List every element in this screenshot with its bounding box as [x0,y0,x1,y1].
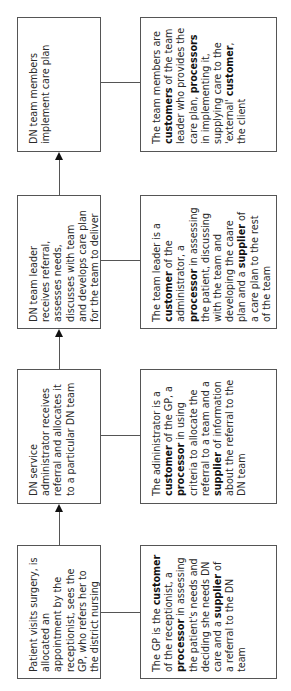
role-text-4: The team members are customers of the te… [151,26,249,144]
connector-1 [101,612,140,613]
process-text-1: Patient visits surgery, is allocated an … [28,554,101,672]
role-keyword: customer [163,271,174,322]
connector-2 [101,435,140,436]
role-box-4: The team members are customers of the te… [140,17,277,152]
flow-arrow-line-2 [59,337,60,369]
role-keyword: supplier [236,224,247,268]
role-keyword: processor [175,443,186,496]
role-text-2: The adininistrator is a customer of the … [151,378,249,496]
process-box-4: DN team members implement care plan [17,17,101,152]
role-box-3: The team leader is a customer of the adm… [140,195,277,329]
role-keyword: customer [224,46,235,97]
role-keyword: processors [188,35,199,94]
role-box-1: The GP is the customer of the receptioni… [140,545,277,679]
role-keyword: supplier [212,452,223,496]
flow-arrow-line-3 [59,160,60,195]
role-box-2: The adininistrator is a customer of the … [140,369,277,504]
role-keyword: processor [188,269,199,322]
role-keyword: customer [151,555,162,606]
arrow-up-icon [55,329,63,337]
role-keyword: customers [163,88,174,144]
process-text-3: DN team leader receives referral, assess… [28,204,101,322]
role-keyword: customer [163,445,174,496]
process-text-4: DN team members implement care plan [28,26,52,144]
process-box-2: DN service administrator receives referr… [17,369,101,504]
connector-3 [101,260,140,261]
arrow-up-icon [55,504,63,512]
role-text-1: The GP is the customer of the receptioni… [151,554,249,672]
arrow-up-icon [55,152,63,160]
role-text-3: The team leader is a customer of the adm… [151,204,273,322]
flow-arrow-line-1 [59,512,60,545]
process-box-1: Patient visits surgery, is allocated an … [17,545,101,679]
role-keyword: processor [175,619,186,672]
process-box-3: DN team leader receives referral, assess… [17,195,101,329]
connector-4 [101,82,140,83]
process-text-2: DN service administrator receives referr… [28,378,77,496]
role-keyword: supplier [212,574,223,618]
